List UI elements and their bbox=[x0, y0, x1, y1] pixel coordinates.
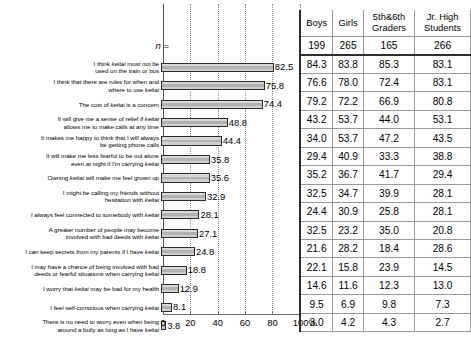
table-cell: 34.0 bbox=[300, 129, 333, 147]
bar bbox=[161, 63, 274, 72]
category-label: Owning keitai will make me feel grown up bbox=[0, 174, 161, 181]
x-tick bbox=[272, 311, 273, 314]
bar-value-label: 35.8 bbox=[211, 154, 229, 165]
data-table: BoysGirls5th&6thGradersJr. HighStudents … bbox=[299, 10, 471, 332]
table-cell: 43.2 bbox=[300, 110, 333, 128]
column-header: Jr. HighStudents bbox=[415, 10, 471, 36]
table-cell: 32.5 bbox=[300, 221, 333, 239]
bar-row: I can keep secrets from my parents if I … bbox=[0, 243, 299, 261]
bar-row: I always feel connected to somebody with… bbox=[0, 206, 299, 224]
category-label: I feel self-conscious when carrying keit… bbox=[0, 304, 161, 311]
table-cell: 2.7 bbox=[415, 313, 471, 331]
bar bbox=[161, 173, 210, 182]
n-value: 199 bbox=[300, 36, 333, 55]
bar-track: 12.9 bbox=[161, 280, 299, 298]
n-value: 165 bbox=[363, 36, 414, 55]
bar-row: It makes me happy to think that I will a… bbox=[0, 132, 299, 150]
table-cell: 83.1 bbox=[415, 55, 471, 73]
bar bbox=[161, 118, 228, 127]
table-cell: 35.2 bbox=[300, 166, 333, 184]
table-row: 43.253.744.053.1 bbox=[299, 110, 471, 128]
bar-track: 28.1 bbox=[161, 206, 299, 224]
table-cell: 53.1 bbox=[415, 110, 471, 128]
bar-value-label: 24.8 bbox=[196, 246, 214, 257]
bar bbox=[161, 247, 195, 256]
bar-value-label: 32.9 bbox=[207, 191, 225, 202]
table-cell: 24.4 bbox=[300, 203, 333, 221]
table-row: 32.534.739.928.1 bbox=[299, 184, 471, 202]
bar-track: 32.9 bbox=[161, 187, 299, 205]
table-row: 32.523.235.020.8 bbox=[299, 221, 471, 239]
bar-row: I worry that keitai may be bad for my he… bbox=[0, 280, 299, 298]
bar-value-label: 18.8 bbox=[188, 264, 206, 275]
x-axis-line bbox=[163, 314, 300, 315]
x-tick-label: 0 bbox=[160, 317, 165, 328]
table-cell: 29.4 bbox=[415, 166, 471, 184]
table-cell: 6.9 bbox=[333, 295, 364, 313]
x-tick bbox=[218, 311, 219, 314]
table-header-row: BoysGirls5th&6thGradersJr. HighStudents bbox=[299, 10, 471, 36]
table-row: 14.611.612.313.0 bbox=[299, 276, 471, 294]
bar-value-label: 28.1 bbox=[200, 209, 218, 220]
bar bbox=[161, 229, 198, 238]
table-cell: 12.3 bbox=[363, 276, 414, 294]
table-cell: 32.5 bbox=[300, 184, 333, 202]
table-cell: 53.7 bbox=[333, 129, 364, 147]
bar-row: It will make me less fearful to be out a… bbox=[0, 150, 299, 168]
table-cell: 28.6 bbox=[415, 240, 471, 258]
category-label: The cost of keitai is a concern bbox=[0, 101, 161, 108]
table-cell: 4.2 bbox=[333, 313, 364, 331]
x-axis: 020406080100% bbox=[0, 314, 299, 345]
bar bbox=[161, 284, 179, 293]
category-label: I can keep secrets from my parents if I … bbox=[0, 248, 161, 255]
table-row: 76.678.072.483.1 bbox=[299, 73, 471, 91]
category-label: I might be calling my friends withouthes… bbox=[0, 189, 161, 203]
table-row: 22.115.823.914.5 bbox=[299, 258, 471, 276]
bar-value-label: 35.6 bbox=[211, 172, 229, 183]
bar-chart: I think keitai must not beused on the tr… bbox=[0, 0, 299, 345]
bar-value-label: 75.8 bbox=[266, 80, 284, 91]
table-cell: 13.0 bbox=[415, 276, 471, 294]
table-cell: 22.1 bbox=[300, 258, 333, 276]
bar bbox=[161, 210, 199, 219]
table-cell: 7.3 bbox=[415, 295, 471, 313]
n-label: n = bbox=[155, 40, 169, 51]
bar-row: A greater number of people may becomeinv… bbox=[0, 224, 299, 242]
table-cell: 30.9 bbox=[333, 203, 364, 221]
bar bbox=[161, 266, 187, 275]
table-cell: 28.1 bbox=[415, 184, 471, 202]
x-tick-label: 60 bbox=[240, 317, 250, 328]
bar-row: I think keitai must not beused on the tr… bbox=[0, 58, 299, 76]
bar-value-label: 82.5 bbox=[275, 61, 293, 72]
table-row: 9.56.99.87.3 bbox=[299, 295, 471, 313]
table-row: 34.053.747.243.5 bbox=[299, 129, 471, 147]
table-cell: 35.0 bbox=[363, 221, 414, 239]
table-cell: 44.0 bbox=[363, 110, 414, 128]
bar-track: 35.8 bbox=[161, 150, 299, 168]
category-label: It will make me less fearful to be out a… bbox=[0, 152, 161, 166]
table-row: 84.383.885.383.1 bbox=[299, 55, 471, 73]
column-header: Boys bbox=[300, 10, 333, 36]
column-header: 5th&6thGraders bbox=[363, 10, 414, 36]
table-cell: 23.9 bbox=[363, 258, 414, 276]
bar-track: 27.1 bbox=[161, 224, 299, 242]
table-cell: 15.8 bbox=[333, 258, 364, 276]
table-cell: 11.6 bbox=[333, 276, 364, 294]
bar-row: Owning keitai will make me feel grown up… bbox=[0, 169, 299, 187]
table-cell: 23.2 bbox=[333, 221, 364, 239]
table-row: 79.272.266.980.8 bbox=[299, 92, 471, 110]
bar-track: 74.4 bbox=[161, 95, 299, 113]
bar-track: 18.8 bbox=[161, 261, 299, 279]
table-row: 3.04.24.32.7 bbox=[299, 313, 471, 331]
category-label: I may have a chance of being involved wi… bbox=[0, 263, 161, 277]
x-tick-label: 40 bbox=[213, 317, 223, 328]
table-cell: 53.7 bbox=[333, 110, 364, 128]
table-cell: 9.8 bbox=[363, 295, 414, 313]
table-cell: 18.4 bbox=[363, 240, 414, 258]
bar-value-label: 27.1 bbox=[199, 228, 217, 239]
table-cell: 83.1 bbox=[415, 73, 471, 91]
table-cell: 72.4 bbox=[363, 73, 414, 91]
x-tick-label: 80 bbox=[267, 317, 277, 328]
bar-track: 75.8 bbox=[161, 76, 299, 94]
table-cell: 14.5 bbox=[415, 258, 471, 276]
